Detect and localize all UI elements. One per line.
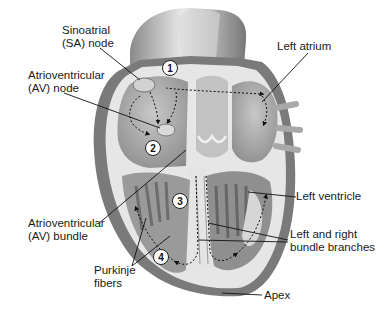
step-badge-2: 2 bbox=[146, 141, 161, 156]
label-av-bundle: Atrioventricular (AV) bundle bbox=[28, 217, 105, 242]
label-av-node: Atrioventricular (AV) node bbox=[28, 69, 105, 94]
label-sa-node: Sinoatrial (SA) node bbox=[62, 24, 114, 49]
label-line: Left ventricle bbox=[296, 190, 361, 203]
label-line: (SA) node bbox=[62, 37, 114, 50]
label-line: (AV) node bbox=[28, 82, 105, 95]
step-badge-4: 4 bbox=[154, 250, 169, 265]
label-line: (AV) bundle bbox=[28, 230, 105, 243]
av-node bbox=[157, 124, 175, 136]
label-line: Left atrium bbox=[277, 40, 331, 53]
label-line: Apex bbox=[264, 289, 290, 302]
step-badge-1: 1 bbox=[163, 61, 178, 76]
label-line: Atrioventricular bbox=[28, 69, 105, 82]
label-line: Sinoatrial bbox=[62, 24, 114, 37]
sa-node bbox=[133, 78, 155, 92]
label-line: bundle branches bbox=[290, 241, 375, 254]
heart-conduction-diagram: 1 2 3 4 Sinoatrial (SA) node Atrioventri… bbox=[0, 0, 387, 318]
step-badge-3: 3 bbox=[173, 194, 188, 209]
label-left-atrium: Left atrium bbox=[277, 40, 331, 53]
svg-text:1: 1 bbox=[167, 63, 173, 74]
svg-text:3: 3 bbox=[177, 196, 183, 207]
label-line: Purkinje bbox=[94, 264, 136, 277]
label-bundle-branches: Left and right bundle branches bbox=[290, 228, 375, 253]
label-left-ventricle: Left ventricle bbox=[296, 190, 361, 203]
svg-text:4: 4 bbox=[158, 252, 164, 263]
aortic-valve-area bbox=[196, 76, 228, 158]
label-line: Left and right bbox=[290, 228, 375, 241]
label-apex: Apex bbox=[264, 289, 290, 302]
label-line: Atrioventricular bbox=[28, 217, 105, 230]
svg-text:2: 2 bbox=[150, 143, 156, 154]
label-line: fibers bbox=[94, 277, 136, 290]
label-purkinje-fibers: Purkinje fibers bbox=[94, 264, 136, 289]
